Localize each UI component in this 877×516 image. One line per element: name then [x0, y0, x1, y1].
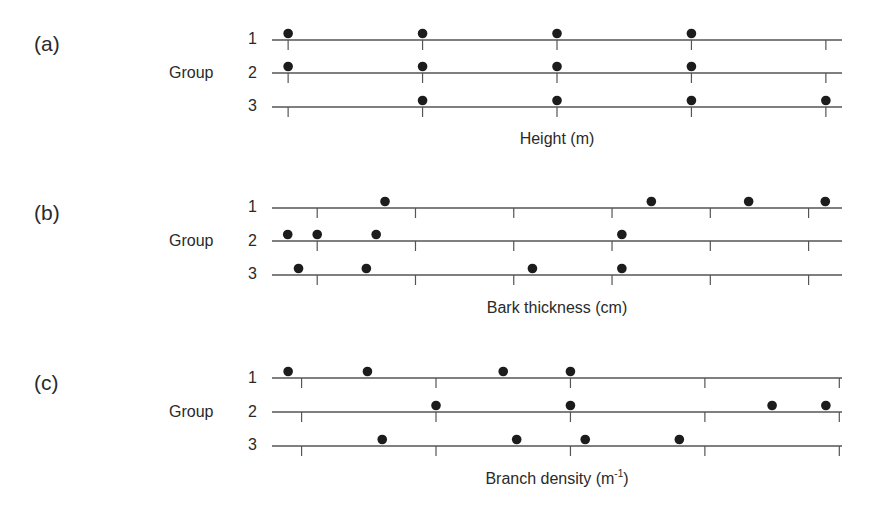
- data-point-group-1: [498, 367, 508, 377]
- panel-label: (c): [34, 371, 59, 394]
- group-axis-label: Group: [169, 64, 214, 81]
- panel-a: (a) Group 1 2 3 Height (m): [34, 29, 842, 147]
- x-axis-label-suffix: ): [623, 470, 628, 487]
- row-label-1: 1: [248, 30, 257, 47]
- data-point-group-3: [418, 96, 428, 106]
- row-label-3: 3: [248, 265, 257, 282]
- data-point-group-2: [566, 401, 576, 411]
- data-point-group-1: [687, 29, 697, 39]
- data-point-group-3: [294, 264, 304, 274]
- panel-b: (b) Group 1 2 3 Bark thickness (cm): [34, 197, 842, 316]
- data-point-group-2: [431, 401, 441, 411]
- data-point-group-1: [552, 29, 562, 39]
- panel-label: (a): [34, 32, 60, 55]
- x-axis-label-main: Branch density (m: [485, 470, 614, 487]
- group-axis-label: Group: [169, 403, 214, 420]
- row-label-2: 2: [248, 403, 257, 420]
- data-point-group-1: [820, 197, 830, 207]
- data-point-group-3: [580, 435, 590, 445]
- data-point-group-1: [566, 367, 576, 377]
- panel-marks: [272, 197, 842, 285]
- row-label-2: 2: [248, 64, 257, 81]
- data-point-group-1: [363, 367, 373, 377]
- data-point-group-2: [312, 230, 322, 240]
- group-axis-label: Group: [169, 232, 214, 249]
- row-label-3: 3: [248, 97, 257, 114]
- panel-label: (b): [34, 201, 60, 224]
- panel-marks: [272, 367, 842, 456]
- x-axis-label: Height (m): [520, 130, 595, 147]
- data-point-group-2: [617, 230, 627, 240]
- data-point-group-2: [687, 62, 697, 72]
- data-point-group-2: [371, 230, 381, 240]
- data-point-group-1: [283, 29, 293, 39]
- row-label-2: 2: [248, 232, 257, 249]
- data-point-group-1: [283, 367, 293, 377]
- data-point-group-3: [528, 264, 538, 274]
- data-point-group-3: [687, 96, 697, 106]
- data-point-group-2: [552, 62, 562, 72]
- data-point-group-1: [647, 197, 657, 207]
- data-point-group-2: [767, 401, 777, 411]
- data-point-group-1: [744, 197, 754, 207]
- data-point-group-2: [821, 401, 831, 411]
- data-point-group-2: [283, 62, 293, 72]
- row-label-3: 3: [248, 436, 257, 453]
- data-point-group-2: [418, 62, 428, 72]
- data-point-group-3: [377, 435, 387, 445]
- data-point-group-3: [552, 96, 562, 106]
- x-axis-label: Branch density (m-1): [485, 468, 628, 487]
- data-point-group-1: [380, 197, 390, 207]
- panel-c: (c) Group 1 2 3 Branch density (m-1): [34, 367, 842, 487]
- row-label-1: 1: [248, 198, 257, 215]
- x-axis-label: Bark thickness (cm): [487, 299, 627, 316]
- row-label-1: 1: [248, 369, 257, 386]
- panel-marks: [272, 29, 842, 117]
- data-point-group-3: [617, 264, 627, 274]
- data-point-group-3: [675, 435, 685, 445]
- data-point-group-3: [512, 435, 522, 445]
- data-point-group-3: [362, 264, 372, 274]
- data-point-group-3: [821, 96, 831, 106]
- figure: (a) Group 1 2 3 Height (m) (b) Group 1 2…: [0, 0, 877, 516]
- data-point-group-1: [418, 29, 428, 39]
- data-point-group-2: [283, 230, 293, 240]
